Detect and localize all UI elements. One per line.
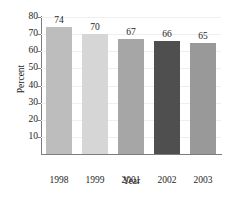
y-axis-tick	[37, 103, 41, 104]
y-axis-tick	[37, 86, 41, 87]
y-axis-tick-label: 20	[20, 115, 38, 125]
plot-area: 741998701999672001662002652003	[41, 17, 221, 154]
y-axis-tick-label: 10	[20, 132, 38, 142]
chart-title-clipped	[0, 0, 226, 1]
bar	[46, 27, 72, 154]
y-axis-tick	[37, 68, 41, 69]
y-axis-tick	[37, 34, 41, 35]
bar-value-label: 67	[116, 27, 146, 37]
bar-value-label: 70	[80, 22, 110, 32]
bar-chart: Percent 1020304050607080 741998701999672…	[0, 0, 226, 198]
y-axis-tick-label: 60	[20, 46, 38, 56]
y-axis-tick	[37, 17, 41, 18]
x-axis-line	[41, 154, 222, 155]
y-axis-tick-labels: 1020304050607080	[18, 16, 38, 155]
y-axis-tick	[37, 120, 41, 121]
bar	[118, 39, 144, 154]
y-axis-tick-label: 40	[20, 81, 38, 91]
y-axis-tick-label: 50	[20, 63, 38, 73]
x-axis-title: Year	[41, 176, 222, 186]
y-axis-tick-label: 30	[20, 98, 38, 108]
y-axis-tick-label: 80	[20, 12, 38, 22]
bar	[154, 41, 180, 154]
y-axis-tick	[37, 137, 41, 138]
bar	[82, 34, 108, 154]
bar-value-label: 74	[44, 15, 74, 25]
y-axis-tick	[37, 51, 41, 52]
bar-value-label: 66	[152, 29, 182, 39]
bar-value-label: 65	[188, 31, 218, 41]
bar	[190, 43, 216, 154]
y-axis-tick-label: 70	[20, 29, 38, 39]
